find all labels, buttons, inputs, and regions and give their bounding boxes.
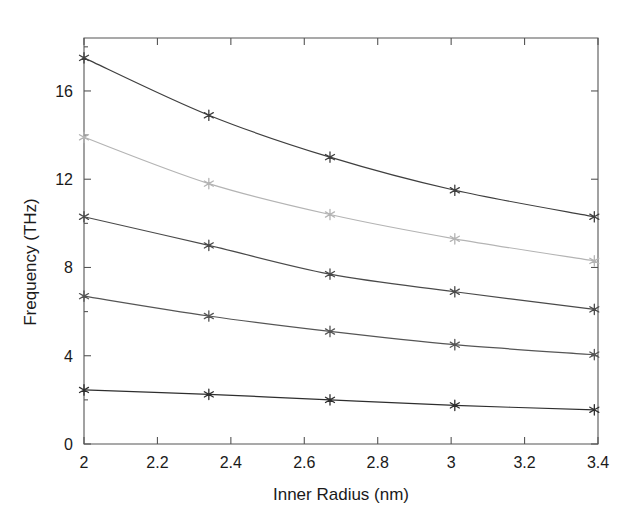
x-tick-label: 2.4 [220, 454, 242, 471]
data-point-marker [325, 152, 334, 162]
y-tick-label: 16 [55, 83, 73, 100]
x-tick-label: 2.8 [367, 454, 389, 471]
data-series [80, 385, 599, 415]
data-point-marker [80, 132, 89, 142]
x-tick-label: 3.2 [513, 454, 535, 471]
x-axis-label: Inner Radius (nm) [273, 485, 409, 504]
x-tick-label: 3.4 [587, 454, 609, 471]
series-line [84, 58, 594, 217]
data-point-marker [204, 110, 213, 120]
data-series [80, 212, 599, 315]
data-point-marker [204, 178, 213, 188]
series-line [84, 390, 594, 410]
x-tick-label: 3 [447, 454, 456, 471]
data-point-marker [80, 212, 89, 222]
series-line [84, 137, 594, 261]
chart-figure: 22.22.42.62.833.23.40481216 Inner Radius… [0, 0, 633, 522]
x-tick-label: 2 [80, 454, 89, 471]
line-chart: 22.22.42.62.833.23.40481216 Inner Radius… [0, 0, 633, 522]
data-series [80, 291, 599, 360]
data-point-marker [204, 240, 213, 250]
tick-labels: 22.22.42.62.833.23.40481216 [55, 83, 609, 471]
series-line [84, 217, 594, 310]
x-tick-label: 2.6 [293, 454, 315, 471]
axes-frame [84, 38, 598, 444]
y-tick-label: 4 [64, 348, 73, 365]
data-point-marker [80, 53, 89, 63]
x-tick-label: 2.2 [146, 454, 168, 471]
y-axis-label: Frequency (THz) [21, 198, 40, 326]
data-point-marker [325, 209, 334, 219]
data-series [80, 132, 599, 266]
y-tick-label: 12 [55, 171, 73, 188]
data-point-marker [450, 185, 459, 195]
y-tick-label: 0 [64, 436, 73, 453]
plot-box [84, 38, 598, 444]
data-series-group [80, 53, 599, 415]
y-tick-label: 8 [64, 259, 73, 276]
axis-ticks [84, 38, 598, 444]
data-series [80, 53, 599, 222]
series-line [84, 296, 594, 354]
